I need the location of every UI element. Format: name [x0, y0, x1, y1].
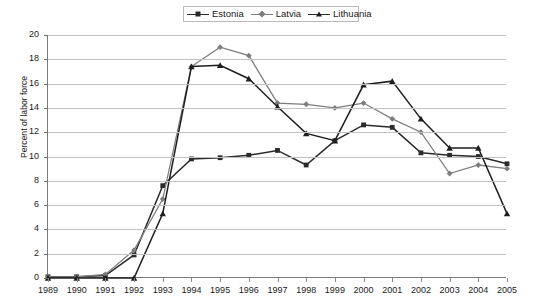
x-axis-tick-mark — [105, 278, 106, 282]
y-axis-tick-mark — [44, 59, 48, 60]
data-point-marker — [246, 53, 252, 59]
legend-line-sample-square-icon — [187, 9, 209, 19]
gridline — [48, 229, 506, 230]
legend-line-sample-triangle-icon — [308, 9, 330, 19]
x-axis-tick-mark — [450, 278, 451, 282]
legend-entry-estonia: Estonia — [187, 9, 244, 19]
x-axis-tick-mark — [335, 278, 336, 282]
x-axis-tick-mark — [364, 278, 365, 282]
series-lithuania — [45, 62, 510, 281]
gridline — [48, 59, 506, 60]
y-axis-tick-mark — [44, 229, 48, 230]
gridline — [48, 35, 506, 36]
y-axis-tick-label: 8 — [19, 176, 39, 185]
data-point-marker — [505, 161, 510, 166]
legend-entry-latvia: Latvia — [251, 9, 301, 19]
gridline — [48, 108, 506, 109]
x-axis-tick-mark — [191, 278, 192, 282]
data-point-marker — [160, 210, 166, 216]
data-point-marker — [304, 163, 309, 168]
data-point-marker — [361, 123, 366, 128]
legend-label-lithuania: Lithuania — [333, 9, 372, 19]
legend-entry-lithuania: Lithuania — [308, 9, 372, 19]
y-axis-tick-label: 14 — [19, 103, 39, 112]
y-axis-tick-label: 2 — [19, 249, 39, 258]
series-estonia — [46, 123, 510, 280]
y-axis-tick-mark — [44, 157, 48, 158]
data-point-marker — [303, 101, 309, 107]
data-point-marker — [275, 148, 280, 153]
legend-label-latvia: Latvia — [276, 9, 301, 19]
y-axis-tick-mark — [44, 108, 48, 109]
y-axis-tick-mark — [44, 132, 48, 133]
y-axis-tick-label: 18 — [19, 54, 39, 63]
data-point-marker — [504, 166, 510, 172]
gridline — [48, 254, 506, 255]
chart-legend: Estonia Latvia Lithuania — [183, 6, 359, 22]
gridline — [48, 205, 506, 206]
x-axis-tick-mark — [134, 278, 135, 282]
y-axis-tick-label: 10 — [19, 152, 39, 161]
gridline — [48, 181, 506, 182]
x-axis-tick-mark — [478, 278, 479, 282]
y-axis-tick-label: 20 — [19, 30, 39, 39]
y-axis-tick-label: 0 — [19, 273, 39, 282]
y-axis-tick-label: 12 — [19, 127, 39, 136]
x-axis-tick-mark — [220, 278, 221, 282]
legend-label-estonia: Estonia — [212, 9, 244, 19]
data-point-marker — [361, 100, 367, 106]
x-axis-tick-mark — [77, 278, 78, 282]
x-axis-tick-mark — [163, 278, 164, 282]
gridline — [48, 157, 506, 158]
x-axis-tick-mark — [249, 278, 250, 282]
data-point-marker — [389, 116, 395, 122]
x-axis-tick-mark — [421, 278, 422, 282]
data-point-marker — [475, 162, 481, 168]
plot-area: 0246810121416182019891990199119921993199… — [47, 35, 506, 278]
series-line — [48, 65, 507, 278]
x-axis-tick-mark — [278, 278, 279, 282]
unemployment-line-chart: Estonia Latvia Lithuania Percent of labo… — [0, 0, 535, 304]
gridline — [48, 132, 506, 133]
series-line — [48, 47, 507, 277]
series-latvia — [45, 44, 510, 279]
legend-line-sample-diamond-icon — [251, 9, 273, 19]
x-axis-tick-mark — [306, 278, 307, 282]
y-axis-tick-mark — [44, 35, 48, 36]
data-point-marker — [504, 210, 510, 216]
data-point-marker — [390, 125, 395, 130]
y-axis-tick-label: 16 — [19, 79, 39, 88]
data-point-marker — [160, 183, 165, 188]
x-axis-tick-mark — [48, 278, 49, 282]
x-axis-tick-label: 2005 — [487, 285, 527, 295]
y-axis-tick-mark — [44, 181, 48, 182]
y-axis-tick-label: 6 — [19, 200, 39, 209]
y-axis-tick-mark — [44, 84, 48, 85]
y-axis-tick-label: 4 — [19, 224, 39, 233]
data-point-marker — [419, 150, 424, 155]
x-axis-tick-mark — [507, 278, 508, 282]
y-axis-tick-mark — [44, 205, 48, 206]
x-axis-tick-mark — [392, 278, 393, 282]
y-axis-tick-mark — [44, 254, 48, 255]
gridline — [48, 84, 506, 85]
